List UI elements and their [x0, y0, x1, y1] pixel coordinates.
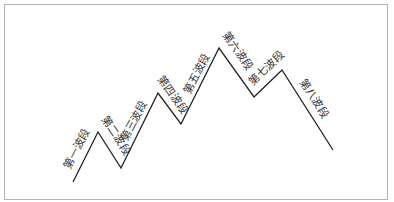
wave-diagram: 第一波段 第二波段 第三波段 第四波段 第五波段 第六波段 第七波段 第八波段	[0, 0, 394, 202]
segment-label-3: 第三波段	[117, 98, 150, 143]
segment-label-6: 第六波段	[220, 29, 257, 73]
segment-label-1: 第一波段	[60, 126, 92, 172]
segment-label-5: 第五波段	[180, 51, 212, 97]
segment-label-8: 第八波段	[296, 76, 332, 121]
